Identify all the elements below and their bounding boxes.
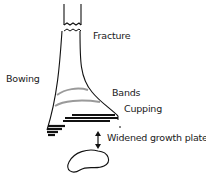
fracture-line (64, 29, 81, 31)
bands-label: Bands (112, 88, 140, 98)
bowing-label: Bowing (6, 74, 40, 84)
fracture-label: Fracture (93, 31, 130, 41)
epiphysis-outline (68, 150, 109, 172)
cupping-label: Cupping (124, 104, 162, 114)
double-arrow-icon (95, 131, 101, 149)
widened-growth-plate-label: Widened growth plate (107, 133, 206, 143)
bands (55, 89, 100, 106)
bone-diagram (0, 0, 206, 182)
upper-shaft-fragment (64, 4, 81, 25)
